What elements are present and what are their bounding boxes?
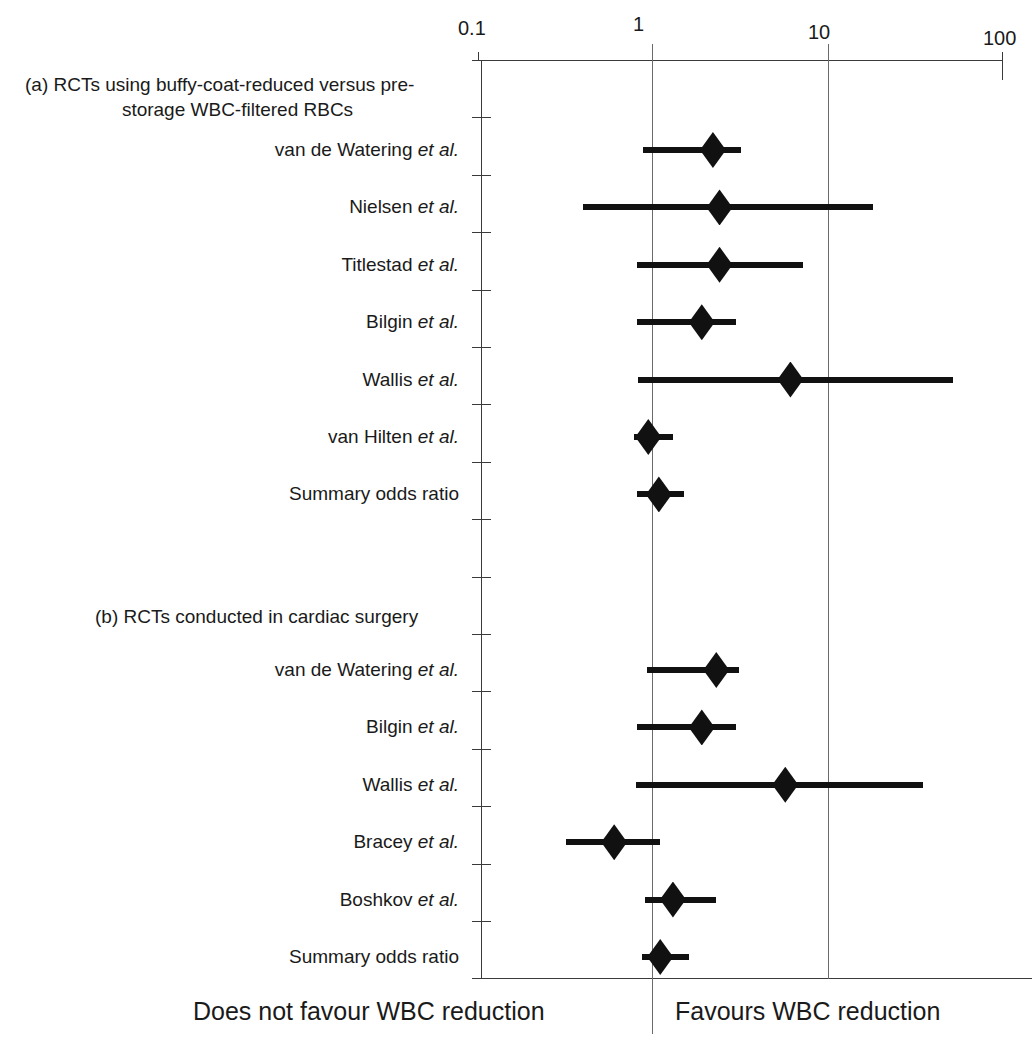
gridline-1: [652, 44, 653, 1034]
confidence-interval-line: [637, 724, 737, 730]
study-label: Nielsen et al.: [0, 195, 459, 218]
confidence-interval-line: [643, 147, 741, 153]
study-label-name: Summary odds ratio: [289, 946, 459, 967]
study-label-name: Boshkov: [340, 889, 418, 910]
study-label: Bilgin et al.: [0, 715, 459, 738]
y-axis-tick: [472, 749, 491, 750]
study-label: Bracey et al.: [0, 830, 459, 853]
study-label-etal: et al.: [418, 311, 459, 332]
y-axis-tick: [472, 806, 491, 807]
study-label: Titlestad et al.: [0, 253, 459, 276]
section-heading-b: (b) RCTs conducted in cardiac surgery: [95, 604, 418, 629]
study-label-etal: et al.: [418, 254, 459, 275]
study-label-name: Nielsen: [349, 196, 418, 217]
study-label-etal: et al.: [418, 196, 459, 217]
y-axis-tick: [472, 117, 491, 118]
study-label-etal: et al.: [418, 831, 459, 852]
study-label-name: Bracey: [353, 831, 417, 852]
study-label-name: van Hilten: [328, 426, 418, 447]
study-label-name: Bilgin: [366, 311, 418, 332]
x-axis-line: [478, 60, 1003, 61]
x-tick-100: [1002, 52, 1003, 80]
study-label-name: Wallis: [363, 774, 418, 795]
footer-label-right: Favours WBC reduction: [675, 996, 940, 1026]
y-axis-tick: [472, 347, 491, 348]
y-axis-tick: [472, 691, 491, 692]
forest-plot-figure: 0.1110100 (a) RCTs using buffy-coat-redu…: [0, 0, 1032, 1046]
y-axis-tick: [472, 577, 491, 578]
y-axis-tick: [472, 60, 491, 61]
confidence-interval-line: [637, 319, 737, 325]
y-axis-tick: [472, 519, 491, 520]
study-label-etal: et al.: [418, 139, 459, 160]
study-label: Wallis et al.: [0, 368, 459, 391]
study-label: Boshkov et al.: [0, 888, 459, 911]
study-label: Summary odds ratio: [0, 482, 459, 505]
y-axis-tick: [472, 175, 491, 176]
study-label-etal: et al.: [418, 659, 459, 680]
y-axis-tick: [472, 978, 491, 979]
study-label: Summary odds ratio: [0, 945, 459, 968]
study-label-etal: et al.: [418, 426, 459, 447]
y-axis-tick: [472, 232, 491, 233]
study-label-etal: et al.: [418, 369, 459, 390]
section-heading-a: storage WBC-filtered RBCs: [25, 97, 450, 122]
y-axis-tick: [472, 290, 491, 291]
study-label: van Hilten et al.: [0, 425, 459, 448]
study-label-etal: et al.: [418, 889, 459, 910]
study-label-etal: et al.: [418, 716, 459, 737]
study-label-name: van de Watering: [275, 659, 418, 680]
study-label-name: van de Watering: [275, 139, 418, 160]
study-label: van de Watering et al.: [0, 138, 459, 161]
y-axis-tick: [472, 462, 491, 463]
y-axis-tick: [472, 404, 491, 405]
study-label: Wallis et al.: [0, 773, 459, 796]
y-axis-tick: [472, 634, 491, 635]
study-label-name: Summary odds ratio: [289, 483, 459, 504]
section-heading-a: (a) RCTs using buffy-coat-reduced versus…: [25, 72, 414, 97]
study-label: van de Watering et al.: [0, 658, 459, 681]
study-label-etal: et al.: [418, 774, 459, 795]
footer-label-left: Does not favour WBC reduction: [193, 996, 545, 1026]
gridline-10: [828, 44, 829, 979]
study-label: Bilgin et al.: [0, 310, 459, 333]
y-axis-tick: [472, 864, 491, 865]
study-label-name: Wallis: [363, 369, 418, 390]
x-axis-baseline: [478, 978, 1032, 979]
study-label-name: Titlestad: [341, 254, 417, 275]
study-label-name: Bilgin: [366, 716, 418, 737]
y-axis-tick: [472, 921, 491, 922]
